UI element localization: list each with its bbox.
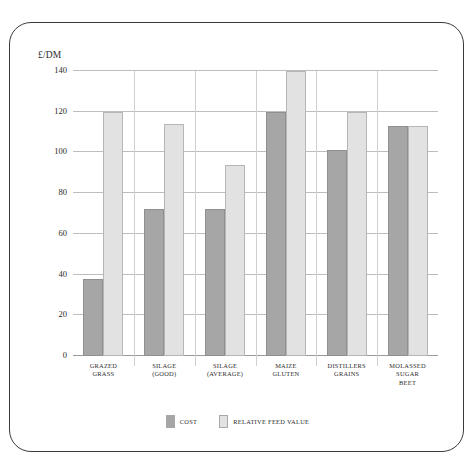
y-tick-label-120: 120 bbox=[54, 106, 67, 116]
bar-relative-feed-value[interactable] bbox=[347, 112, 367, 356]
x-axis-label: DISTILLERSGRAINS bbox=[316, 362, 377, 379]
x-axis-label-line: (GOOD) bbox=[134, 370, 195, 378]
legend-swatch-rfv bbox=[219, 415, 228, 428]
x-axis-label: MOLASSEDSUGARBEET bbox=[377, 362, 438, 387]
bar-chart: £/DM 020406080100120140 GRAZEDGRASSSILAG… bbox=[10, 23, 465, 453]
plot-area: 020406080100120140 bbox=[73, 71, 438, 356]
chart-legend: COSTRELATIVE FEED VALUE bbox=[10, 415, 465, 428]
bar-group bbox=[73, 71, 134, 356]
legend-label: RELATIVE FEED VALUE bbox=[233, 418, 309, 425]
bar-relative-feed-value[interactable] bbox=[408, 126, 428, 356]
x-axis-label-line: SILAGE bbox=[134, 362, 195, 370]
x-axis-label-line: GLUTEN bbox=[256, 370, 317, 378]
bar-cost[interactable] bbox=[266, 112, 286, 356]
y-tick-label-0: 0 bbox=[63, 350, 67, 360]
legend-item[interactable]: RELATIVE FEED VALUE bbox=[219, 415, 309, 428]
bar-cost[interactable] bbox=[144, 209, 164, 356]
y-tick-label-80: 80 bbox=[59, 187, 68, 197]
bar-cost[interactable] bbox=[388, 126, 408, 356]
legend-label: COST bbox=[180, 418, 198, 425]
bar-relative-feed-value[interactable] bbox=[164, 124, 184, 356]
y-tick-label-20: 20 bbox=[59, 309, 68, 319]
x-axis-label-line: DISTILLERS bbox=[316, 362, 377, 370]
bar-group bbox=[195, 71, 256, 356]
y-tick-label-140: 140 bbox=[54, 65, 67, 75]
figure-frame: £/DM 020406080100120140 GRAZEDGRASSSILAG… bbox=[9, 22, 464, 452]
x-axis-label-line: GRASS bbox=[73, 370, 134, 378]
bar-relative-feed-value[interactable] bbox=[286, 71, 306, 356]
x-axis-label-line: GRAZED bbox=[73, 362, 134, 370]
x-axis-label-line: (AVERAGE) bbox=[195, 370, 256, 378]
x-axis-label: SILAGE(GOOD) bbox=[134, 362, 195, 379]
bar-group bbox=[377, 71, 438, 356]
clipped-caption-text bbox=[0, 0, 475, 14]
x-axis-label-line: MAIZE bbox=[256, 362, 317, 370]
x-axis-label: SILAGE(AVERAGE) bbox=[195, 362, 256, 379]
bar-group bbox=[316, 71, 377, 356]
y-tick-label-60: 60 bbox=[59, 228, 68, 238]
x-axis-label: MAIZEGLUTEN bbox=[256, 362, 317, 379]
x-axis-category-labels: GRAZEDGRASSSILAGE(GOOD)SILAGE(AVERAGE)MA… bbox=[73, 362, 438, 408]
y-tick-label-40: 40 bbox=[59, 269, 68, 279]
x-axis-label-line: MOLASSED bbox=[377, 362, 438, 370]
x-axis-label-line: SUGAR bbox=[377, 370, 438, 378]
x-axis-label-line: SILAGE bbox=[195, 362, 256, 370]
bar-cost[interactable] bbox=[83, 279, 103, 356]
x-axis-label: GRAZEDGRASS bbox=[73, 362, 134, 379]
bar-cost[interactable] bbox=[327, 150, 347, 356]
legend-swatch-cost bbox=[166, 415, 175, 428]
x-axis-label-line: BEET bbox=[377, 379, 438, 387]
bar-cost[interactable] bbox=[205, 209, 225, 356]
bar-group bbox=[256, 71, 317, 356]
y-axis-unit-label: £/DM bbox=[38, 50, 62, 60]
bar-group bbox=[134, 71, 195, 356]
bar-relative-feed-value[interactable] bbox=[225, 165, 245, 356]
figure-page: £/DM 020406080100120140 GRAZEDGRASSSILAG… bbox=[0, 0, 475, 473]
legend-item[interactable]: COST bbox=[166, 415, 198, 428]
bar-relative-feed-value[interactable] bbox=[103, 112, 123, 356]
y-tick-label-100: 100 bbox=[54, 146, 67, 156]
x-axis-label-line: GRAINS bbox=[316, 370, 377, 378]
